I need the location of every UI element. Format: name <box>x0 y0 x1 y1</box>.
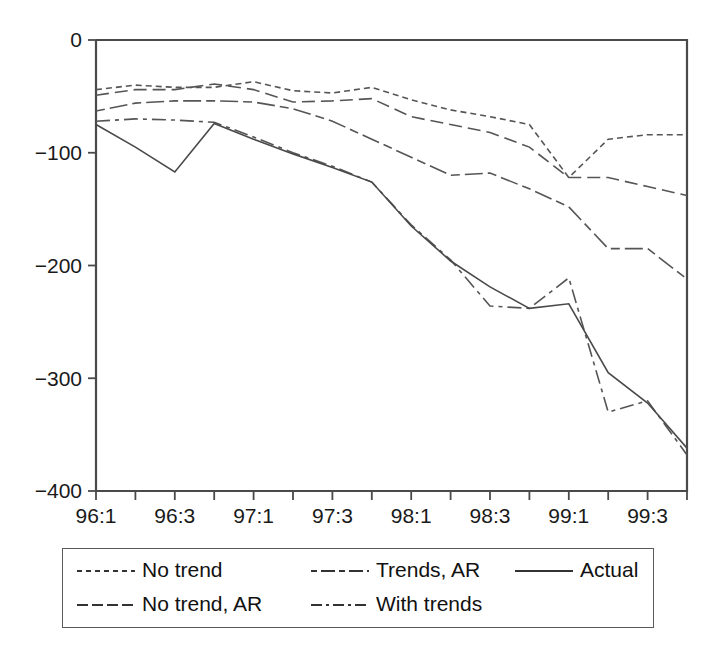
y-axis-labels: 0 −100 −200 −300 −400 <box>35 28 82 502</box>
legend-item-no-trend: No trend <box>77 559 223 581</box>
series-line-with-trends <box>96 119 687 455</box>
x-tick-label: 96:3 <box>154 504 195 527</box>
x-tick-label: 96:1 <box>76 504 117 527</box>
x-tick-label: 99:3 <box>627 504 668 527</box>
legend-label: Actual <box>580 559 638 581</box>
line-chart-plot: 0 −100 −200 −300 −400 96:196:397:197:398… <box>0 0 719 540</box>
x-tick-label: 98:3 <box>470 504 511 527</box>
legend-swatch-dash-dot-icon <box>311 603 369 605</box>
legend-swatch-dashed-icon <box>77 603 135 605</box>
y-tick-label: −200 <box>35 254 82 277</box>
legend-item-with-trends: With trends <box>311 593 482 615</box>
x-tick-label: 98:1 <box>391 504 432 527</box>
series-line-trends-ar <box>96 101 687 279</box>
y-tick-label: −400 <box>35 479 82 502</box>
x-axis-labels: 96:196:397:197:398:198:399:199:3 <box>76 504 668 527</box>
series-group <box>96 82 687 455</box>
legend-swatch-solid-icon <box>515 569 573 571</box>
legend-label: No trend, AR <box>142 593 262 615</box>
legend-swatch-dash-dash-long-icon <box>311 569 369 571</box>
chart-legend: No trend Trends, AR Actual No trend, AR <box>62 548 654 628</box>
legend-item-no-trend-ar: No trend, AR <box>77 593 262 615</box>
legend-item-trends-ar: Trends, AR <box>311 559 480 581</box>
plot-frame <box>96 40 687 491</box>
legend-swatch-dotted-icon <box>77 569 135 571</box>
x-axis-ticks <box>96 491 687 500</box>
legend-label: With trends <box>376 593 482 615</box>
legend-label: No trend <box>142 559 223 581</box>
legend-item-actual: Actual <box>515 559 638 581</box>
chart-figure: 0 −100 −200 −300 −400 96:196:397:197:398… <box>0 0 719 661</box>
series-line-no-trend <box>96 82 687 178</box>
legend-label: Trends, AR <box>376 559 480 581</box>
y-tick-label: −100 <box>35 141 82 164</box>
x-tick-label: 99:1 <box>548 504 589 527</box>
y-tick-label: −300 <box>35 367 82 390</box>
series-line-actual <box>96 123 687 448</box>
x-tick-label: 97:3 <box>312 504 353 527</box>
y-axis-ticks <box>88 40 96 491</box>
x-tick-label: 97:1 <box>233 504 274 527</box>
y-tick-label: 0 <box>70 28 82 51</box>
